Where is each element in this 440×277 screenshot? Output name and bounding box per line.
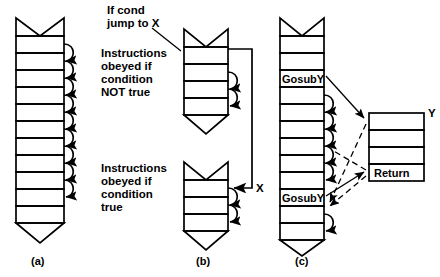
panel-c-seq-arrow <box>324 146 333 163</box>
panel-b-upper-row <box>184 98 228 115</box>
gosub-label-1: GosubY <box>282 73 325 85</box>
panel-c-row <box>280 138 324 155</box>
panel-b-seq-arrow <box>228 89 237 106</box>
panel-a-seq-arrow <box>64 44 73 61</box>
panel-c-row <box>280 121 324 138</box>
panel-b-true-line4: true <box>101 201 123 213</box>
subroutine-row <box>369 130 424 147</box>
panel-b-upper-row-jump <box>184 47 228 64</box>
panel-c-seq-arrow <box>324 163 333 180</box>
panel-a-bottom-point <box>16 223 64 243</box>
panel-c-row <box>280 223 324 240</box>
panel-b-true-line3: condition <box>101 188 153 200</box>
panel-a-seq-arrow <box>64 95 73 112</box>
panel-c-row <box>280 53 324 70</box>
panel-a-row <box>16 53 64 70</box>
panel-a-row <box>16 70 64 87</box>
panel-a-row <box>16 138 64 155</box>
panel-c-seq-arrow <box>324 214 333 231</box>
panel-b-jump-target-label: X <box>256 182 264 194</box>
panel-a-row <box>16 155 64 172</box>
panel-b-upper-top-notch <box>184 29 228 47</box>
panel-a-seq-arrow <box>64 163 73 180</box>
call-arrow-1 <box>326 76 364 118</box>
panel-c-bottom-point <box>280 240 324 256</box>
panel-a-row <box>16 36 64 53</box>
caption-c: (c) <box>295 255 309 267</box>
subroutine-row-entry <box>369 113 424 130</box>
panel-a-seq-arrow <box>64 78 73 95</box>
panel-a-row <box>16 104 64 121</box>
panel-a-row <box>16 87 64 104</box>
panel-c-seq-arrow <box>324 129 333 146</box>
return-arrow-3 <box>332 150 366 170</box>
panel-b-jump-connector <box>228 49 252 188</box>
panel-b-lower-row <box>184 214 228 231</box>
panel-b-seq-arrow <box>228 188 237 205</box>
panel-a-row <box>16 189 64 206</box>
panel-a-seq-arrow <box>64 61 73 78</box>
panel-c-row <box>280 155 324 172</box>
subroutine-row <box>369 147 424 164</box>
panel-c-row <box>280 87 324 104</box>
panel-b-seq-arrow <box>228 205 237 222</box>
panel-c-main-block <box>280 18 333 256</box>
panel-b-lower-row-target <box>184 180 228 197</box>
gosub-label-2: GosubY <box>282 192 325 204</box>
panel-c-row <box>280 36 324 53</box>
panel-b-condition-line2: jump to X <box>106 17 160 29</box>
panel-b-true-line1: Instructions <box>101 162 167 174</box>
panel-b-nottrue-line2: obeyed if <box>101 60 152 72</box>
panel-b-upper-row <box>184 81 228 98</box>
panel-b-nottrue-line4: NOT true <box>101 86 150 98</box>
panel-b-true-line2: obeyed if <box>101 175 152 187</box>
panel-b-seq-arrow <box>228 72 237 89</box>
caption-b: (b) <box>196 255 210 267</box>
panel-a-seq-arrow <box>64 129 73 146</box>
panel-b-upper-row <box>184 64 228 81</box>
panel-b-nottrue-line1: Instructions <box>101 47 167 59</box>
panel-a-row <box>16 172 64 189</box>
subroutine-name-label: Y <box>428 107 436 119</box>
panel-c-top-notch <box>280 18 324 36</box>
flow-diagram-svg: If cond jump to X Instructions obeyed if… <box>0 0 440 277</box>
panel-a-seq-arrow <box>64 112 73 129</box>
panel-c-row <box>280 172 324 189</box>
panel-b-lower-block <box>184 162 237 250</box>
panel-c-seq-arrow <box>324 95 333 112</box>
panel-a-top-notch <box>16 18 64 36</box>
panel-b-upper-bottom-point <box>184 115 228 134</box>
caption-a: (a) <box>31 255 45 267</box>
panel-a-block <box>16 18 73 243</box>
panel-c-seq-arrow <box>324 112 333 129</box>
panel-b-lower-row <box>184 197 228 214</box>
panel-a-row <box>16 121 64 138</box>
panel-a-seq-arrow <box>64 180 73 197</box>
panel-c-row <box>280 104 324 121</box>
figure-canvas: If cond jump to X Instructions obeyed if… <box>0 0 440 277</box>
panel-b-upper-block <box>184 29 237 134</box>
panel-b-lower-bottom-point <box>184 231 228 250</box>
panel-a-row <box>16 206 64 223</box>
panel-b-condition-line1: If cond <box>107 4 145 16</box>
panel-c-row <box>280 206 324 223</box>
return-label: Return <box>374 167 410 179</box>
panel-b-nottrue-line3: condition <box>101 73 153 85</box>
panel-b-lower-top-notch <box>184 162 228 180</box>
panel-a-seq-arrow <box>64 146 73 163</box>
